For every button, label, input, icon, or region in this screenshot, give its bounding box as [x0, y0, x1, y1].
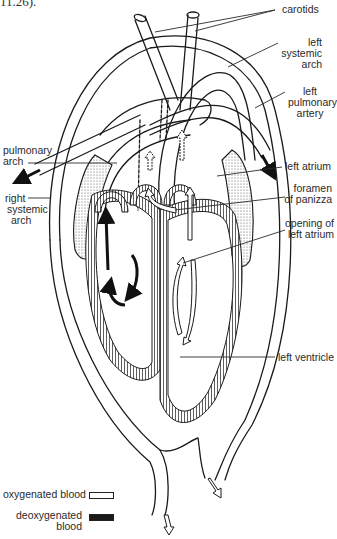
deoxygenated-arrow-loop — [130, 255, 137, 295]
label-carotids: carotids — [282, 4, 319, 15]
right-ventricle-wall — [86, 190, 160, 380]
legend-oxygenated-label: oxygenated blood — [3, 489, 86, 500]
legend-deoxygenated-label: deoxygenated blood — [10, 510, 82, 532]
oxygenated-arrow-loop — [183, 260, 196, 345]
oxygenated-arrow-up-2 — [177, 130, 187, 160]
label-opening-of-left-atrium: opening of left atrium — [280, 218, 334, 240]
leader-left-systemic-arch — [228, 43, 278, 67]
legend-deoxygenated-swatch — [89, 514, 114, 521]
label-foramen-of-panizza: foramen of panizza — [278, 183, 332, 205]
label-left-atrium: left atrium — [285, 161, 331, 172]
label-right-systemic-arch: right systemic arch — [5, 193, 48, 226]
deoxygenated-arrow-left-pulmonary — [262, 155, 272, 173]
oxygenated-arrow-exit-1 — [208, 478, 221, 498]
deoxygenated-arrow-up — [106, 215, 108, 270]
heart-illustration — [0, 0, 337, 539]
leader-carotids — [155, 10, 275, 32]
deoxygenated-arrow-loop-2 — [110, 285, 125, 305]
label-pulmonary-arch: pulmonary arch — [3, 145, 52, 167]
label-left-systemic-arch: left systemic arch — [278, 37, 322, 70]
heart-diagram: 11.26). — [0, 0, 337, 539]
oxygenated-arrow-exit-2 — [164, 515, 174, 535]
legend-oxygenated-swatch — [89, 492, 114, 499]
label-left-ventricle: left ventricle — [278, 352, 334, 363]
deoxygenated-arrow-right-pulmonary — [20, 170, 40, 180]
label-left-pulmonary-artery: left pulmonary artery — [288, 86, 332, 119]
carotid-right — [180, 15, 188, 110]
left-ventricle-wall — [160, 199, 242, 422]
oxygenated-arrow-ventricle — [173, 257, 186, 335]
oxygenated-arrow-up-1 — [145, 151, 155, 170]
